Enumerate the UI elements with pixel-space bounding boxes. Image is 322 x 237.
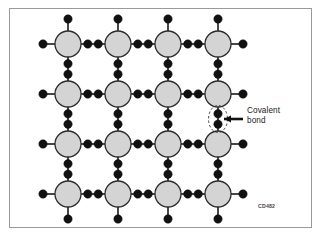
shared-electron-pair xyxy=(214,70,222,78)
shared-electron-pair xyxy=(134,40,142,48)
covalent-bond-label: Covalent bond xyxy=(247,106,280,126)
atom-core xyxy=(105,181,131,207)
edge-electron xyxy=(39,190,47,198)
edge-electron xyxy=(214,215,222,223)
atom-core xyxy=(55,131,81,157)
shared-electron-pair xyxy=(214,160,222,168)
shared-electron-pair xyxy=(194,40,202,48)
shared-electron-pair xyxy=(94,140,102,148)
shared-electron-pair xyxy=(114,110,122,118)
covalent-bond-label-line1: Covalent xyxy=(247,106,280,116)
shared-electron-pair xyxy=(64,70,72,78)
edge-electron xyxy=(164,15,172,23)
edge-electron xyxy=(39,140,47,148)
atom-core xyxy=(205,81,231,107)
shared-electron-pair xyxy=(164,70,172,78)
shared-electron-pair xyxy=(144,40,152,48)
edge-electron xyxy=(64,15,72,23)
shared-electron-pair xyxy=(134,90,142,98)
edge-electron xyxy=(114,215,122,223)
atom-core xyxy=(105,131,131,157)
shared-electron-pair xyxy=(184,140,192,148)
atom-core xyxy=(205,181,231,207)
shared-electron-pair xyxy=(144,190,152,198)
shared-electron-pair xyxy=(164,60,172,68)
shared-electron-pair xyxy=(184,40,192,48)
atom-core xyxy=(155,131,181,157)
atom-core xyxy=(205,131,231,157)
shared-electron-pair xyxy=(164,160,172,168)
shared-electron-pair xyxy=(134,140,142,148)
edge-electron xyxy=(239,140,247,148)
shared-electron-pair xyxy=(94,40,102,48)
shared-electron-pair xyxy=(84,140,92,148)
figure-container: Covalent bond CD482 xyxy=(0,0,322,237)
edge-electron xyxy=(214,15,222,23)
shared-electron-pair xyxy=(164,120,172,128)
shared-electron-pair xyxy=(114,70,122,78)
shared-electron-pair xyxy=(64,60,72,68)
atom-core xyxy=(155,31,181,57)
atom-core xyxy=(105,81,131,107)
shared-electron-pair xyxy=(94,90,102,98)
shared-electron-pair xyxy=(84,190,92,198)
shared-electron-pair xyxy=(84,90,92,98)
shared-electron-pair xyxy=(144,140,152,148)
shared-electron-pair xyxy=(114,60,122,68)
shared-electron-pair xyxy=(214,170,222,178)
edge-electron xyxy=(239,90,247,98)
shared-electron-pair xyxy=(184,90,192,98)
edge-electron xyxy=(114,15,122,23)
covalent-bond-label-line2: bond xyxy=(247,116,280,126)
shared-electron-pair xyxy=(64,170,72,178)
covalent-bond-highlight-group xyxy=(209,106,244,133)
shared-electron-pair xyxy=(194,90,202,98)
atom-core xyxy=(155,81,181,107)
shared-electron-pair xyxy=(184,190,192,198)
atom-core xyxy=(55,31,81,57)
shared-electron-pair xyxy=(94,190,102,198)
atom-core xyxy=(55,181,81,207)
shared-electron-pair xyxy=(64,110,72,118)
shared-electron-pair xyxy=(144,90,152,98)
edge-electron xyxy=(64,215,72,223)
shared-electron-pair xyxy=(214,110,222,118)
shared-electron-pair xyxy=(214,120,222,128)
shared-electron-pair xyxy=(194,190,202,198)
shared-electron-pair xyxy=(64,120,72,128)
atom-core xyxy=(55,81,81,107)
edge-electron xyxy=(239,40,247,48)
atom-core xyxy=(205,31,231,57)
shared-electron-pair xyxy=(214,60,222,68)
shared-electron-pair xyxy=(114,160,122,168)
atom-core xyxy=(105,31,131,57)
shared-electron-pair xyxy=(134,190,142,198)
shared-electron-pair xyxy=(114,120,122,128)
edge-electron xyxy=(239,190,247,198)
edge-electron xyxy=(39,40,47,48)
shared-electron-pair xyxy=(194,140,202,148)
shared-electron-pair xyxy=(114,170,122,178)
shared-electron-pair xyxy=(164,110,172,118)
atoms-group xyxy=(55,31,231,207)
edge-electron xyxy=(39,90,47,98)
edge-electron xyxy=(164,215,172,223)
shared-electron-pair xyxy=(64,160,72,168)
figure-code: CD482 xyxy=(258,203,275,209)
atom-core xyxy=(155,181,181,207)
shared-electron-pair xyxy=(164,170,172,178)
shared-electron-pair xyxy=(84,40,92,48)
